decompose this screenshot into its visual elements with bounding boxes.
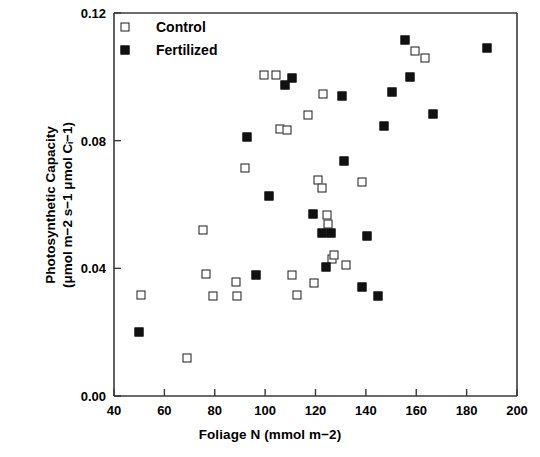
data-point-fertilized: [252, 270, 261, 279]
data-point-fertilized: [358, 282, 367, 291]
x-tick-label: 180: [456, 403, 478, 418]
legend-label-fertilized: Fertilized: [156, 42, 217, 58]
data-point-fertilized: [340, 157, 349, 166]
data-point-fertilized: [308, 210, 317, 219]
data-point-fertilized: [374, 291, 383, 300]
data-point-control: [201, 270, 210, 279]
y-tick-label: 0.00: [40, 389, 106, 404]
x-axis-title: Foliage N (mmol m−2): [0, 427, 540, 442]
data-point-fertilized: [317, 229, 326, 238]
y-axis-title-line1: Photosynthetic Capacity: [42, 55, 59, 355]
data-point-control: [287, 270, 296, 279]
y-tick-label: 0.12: [40, 6, 106, 21]
data-point-control: [209, 292, 218, 301]
data-point-fertilized: [428, 110, 437, 119]
x-tick-label: 60: [157, 403, 171, 418]
data-point-control: [410, 47, 419, 56]
x-tick-label: 200: [506, 403, 528, 418]
x-tick-label: 80: [208, 403, 222, 418]
y-axis-title-line2: (μmol m−2 s−1 μmol Cᵢ−1): [59, 55, 76, 355]
x-axis-title-text: Foliage N (mmol m−2): [199, 427, 342, 442]
data-point-control: [292, 291, 301, 300]
data-point-control: [183, 353, 192, 362]
scatter-plot-figure: 0.000.040.080.12 40608010012014016018020…: [0, 0, 540, 457]
data-point-fertilized: [264, 191, 273, 200]
data-point-control: [322, 210, 331, 219]
x-tick-label: 160: [405, 403, 427, 418]
data-point-control: [282, 125, 291, 134]
data-point-fertilized: [287, 74, 296, 83]
data-point-fertilized: [337, 91, 346, 100]
data-point-fertilized: [482, 44, 491, 53]
legend-label-control: Control: [156, 19, 206, 35]
data-point-fertilized: [379, 122, 388, 131]
data-point-fertilized: [400, 36, 409, 45]
data-point-fertilized: [363, 231, 372, 240]
data-point-control: [232, 278, 241, 287]
data-point-control: [240, 164, 249, 173]
data-point-control: [421, 53, 430, 62]
x-tick-label: 100: [254, 403, 276, 418]
x-tick-label: 140: [355, 403, 377, 418]
data-point-control: [324, 219, 333, 228]
data-point-control: [358, 177, 367, 186]
legend-swatch-fertilized: [121, 46, 130, 55]
x-tick-label: 120: [305, 403, 327, 418]
data-point-control: [330, 250, 339, 259]
y-axis-title: Photosynthetic Capacity (μmol m−2 s−1 μm…: [42, 55, 82, 355]
data-point-control: [319, 90, 328, 99]
data-point-control: [303, 111, 312, 120]
legend-swatch-control: [121, 23, 130, 32]
data-point-fertilized: [135, 328, 144, 337]
data-point-control: [259, 71, 268, 80]
data-point-control: [317, 183, 326, 192]
data-point-fertilized: [405, 73, 414, 82]
data-point-control: [233, 292, 242, 301]
data-point-control: [272, 71, 281, 80]
data-point-control: [136, 291, 145, 300]
data-point-control: [199, 226, 208, 235]
data-point-fertilized: [326, 228, 335, 237]
x-tick-label: 40: [107, 403, 121, 418]
data-point-control: [310, 278, 319, 287]
data-point-fertilized: [321, 263, 330, 272]
data-point-fertilized: [243, 133, 252, 142]
data-point-control: [341, 261, 350, 270]
data-point-fertilized: [388, 88, 397, 97]
